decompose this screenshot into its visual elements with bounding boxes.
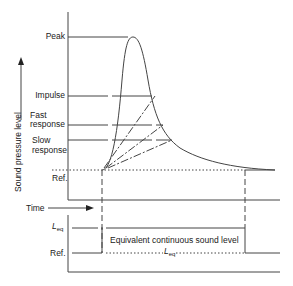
leq-label: Leq [52, 222, 63, 234]
slow-label-line1: Slow [32, 136, 50, 145]
leq-label-sub: eq [57, 226, 64, 232]
fast-response-line [106, 125, 163, 168]
impulse-response-line [104, 96, 155, 168]
leq-step-left [72, 228, 102, 253]
lower-ref-label: Ref. [50, 249, 66, 258]
impulse-label: Impulse [10, 91, 65, 100]
time-label: Time [26, 204, 45, 213]
ref-label: Ref. [52, 174, 68, 183]
y-axis-arrowhead [18, 57, 24, 65]
time-arrowhead [86, 205, 94, 211]
caption-leq-sub: eq [169, 251, 176, 257]
slow-label-line2: response [32, 146, 67, 155]
peak-label: Peak [20, 32, 65, 41]
caption-leq: Leq [163, 247, 176, 259]
sound-pressure-curve [102, 37, 275, 170]
leq-step-right [245, 228, 280, 253]
fast-label-line2: response [30, 120, 65, 129]
y-axis-label: Sound pressure level [13, 112, 23, 192]
equivalent-level-caption: Equivalent continuous sound level [110, 236, 239, 245]
slow-response-line [108, 140, 172, 168]
